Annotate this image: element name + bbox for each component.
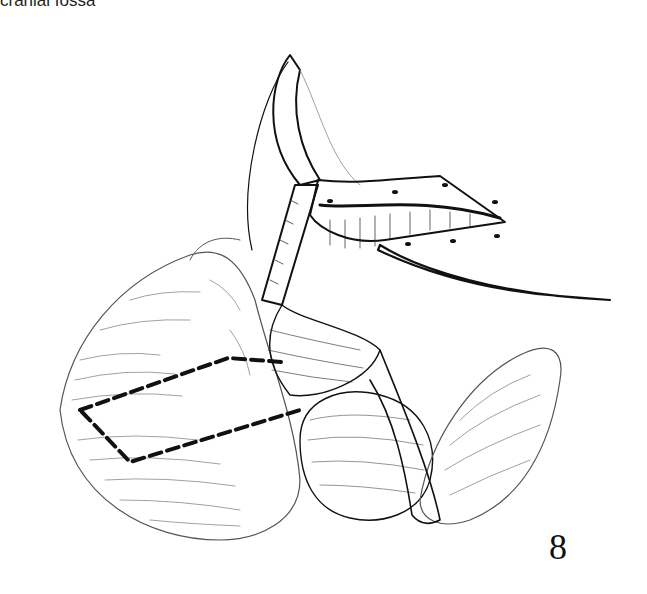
brain-right-region	[420, 348, 561, 524]
small-fold	[190, 238, 240, 260]
central-lower-mass	[300, 392, 433, 520]
descending-structure	[370, 350, 440, 523]
cut-bone-edge	[262, 185, 318, 305]
exposed-tissue	[270, 305, 380, 396]
figure-number: 8	[549, 526, 567, 568]
bone-flap-horizontal	[310, 176, 505, 241]
surgical-illustration	[0, 0, 647, 594]
bone-shelf-lower	[378, 245, 610, 300]
